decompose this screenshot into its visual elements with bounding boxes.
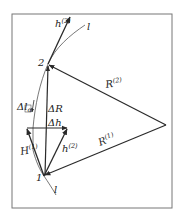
label-point-2: 2 (37, 57, 44, 68)
label-delta-h: Δh (47, 117, 62, 128)
label-h2-top: h(2) (55, 17, 71, 29)
h1-vector (27, 129, 44, 176)
label-R2: R(2) (104, 76, 124, 90)
R2-vector (49, 65, 166, 125)
label-curve-bottom: l (54, 184, 57, 195)
label-h2-bottom: h(2) (62, 142, 78, 154)
label-delta-R: ΔR (47, 103, 63, 114)
label-point-1: 1 (36, 172, 42, 183)
delta-l-arrow (32, 100, 34, 112)
diagram: h(2) l 2 R(2) Δlα ΔR Δh H(1) h(2) R(1) 1… (0, 0, 181, 218)
label-R1: R(1) (95, 130, 116, 148)
label-curve-top: l (87, 21, 90, 32)
